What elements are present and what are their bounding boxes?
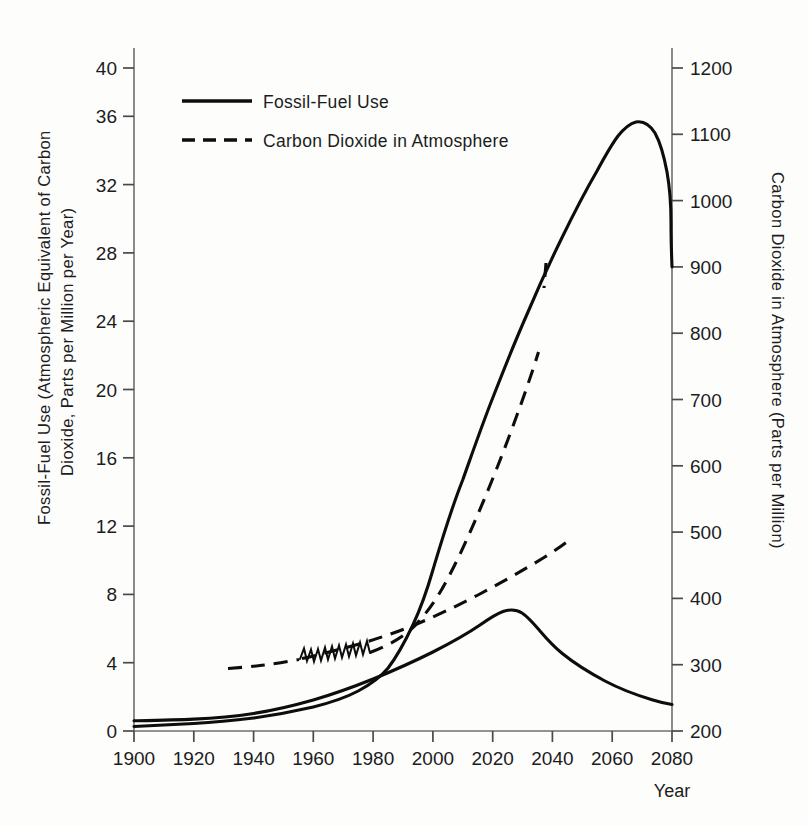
left-tick-label-12: 12 (96, 516, 117, 537)
x-tick-label-2080: 2080 (651, 748, 693, 769)
left-tick-label-0: 0 (106, 721, 117, 742)
right-tick-label-500: 500 (690, 522, 722, 543)
chart-figure: 0 4 8 12 16 20 24 28 32 36 40 2 (0, 0, 808, 826)
left-tick-label-32: 32 (96, 175, 117, 196)
right-axis-ticks: 200 300 400 500 600 700 800 900 1000 110… (672, 58, 732, 742)
chart-legend: Fossil-Fuel Use Carbon Dioxide in Atmosp… (182, 92, 509, 151)
right-tick-label-900: 900 (690, 257, 722, 278)
x-tick-label-2000: 2000 (412, 748, 454, 769)
left-tick-label-40: 40 (96, 58, 117, 79)
x-axis-title: Year (654, 781, 690, 801)
series-fossil-fuel-dashed-projection (302, 543, 566, 659)
right-tick-label-400: 400 (690, 588, 722, 609)
x-tick-label-1980: 1980 (352, 748, 394, 769)
right-tick-label-1100: 1100 (690, 124, 731, 145)
left-tick-label-16: 16 (96, 448, 117, 469)
left-axis-title-line2: Dioxide, Parts per Million per Year) (58, 208, 76, 476)
series-carbon-dioxide-solid (134, 122, 672, 727)
legend-label-fossil-fuel-use: Fossil-Fuel Use (263, 92, 389, 112)
dashed-stub-marker (544, 263, 546, 288)
x-tick-label-1920: 1920 (173, 748, 215, 769)
left-tick-label-36: 36 (96, 106, 117, 127)
legend-label-carbon-dioxide: Carbon Dioxide in Atmosphere (263, 131, 509, 151)
series-carbon-dioxide-dashed-observed (228, 660, 299, 669)
right-tick-label-600: 600 (690, 456, 722, 477)
left-tick-label-8: 8 (106, 584, 117, 605)
right-tick-label-1000: 1000 (690, 191, 732, 212)
x-tick-label-2040: 2040 (531, 748, 573, 769)
left-tick-label-4: 4 (106, 653, 117, 674)
left-axis-ticks: 0 4 8 12 16 20 24 28 32 36 40 (96, 58, 134, 742)
x-tick-label-1900: 1900 (113, 748, 155, 769)
right-tick-label-800: 800 (690, 323, 722, 344)
right-axis-title: Carbon Dioxide in Atmosphere (Parts per … (769, 172, 787, 549)
left-tick-label-28: 28 (96, 243, 117, 264)
right-tick-label-300: 300 (690, 655, 722, 676)
x-tick-label-2020: 2020 (472, 748, 514, 769)
right-tick-label-200: 200 (690, 721, 722, 742)
chart-canvas: 0 4 8 12 16 20 24 28 32 36 40 2 (0, 0, 808, 826)
x-axis-ticks: 1900 1920 1940 1960 1980 2000 2020 2040 … (113, 731, 693, 769)
left-tick-label-20: 20 (96, 380, 117, 401)
left-tick-label-24: 24 (96, 311, 118, 332)
right-tick-label-700: 700 (690, 390, 722, 411)
series-fossil-fuel-solid (134, 610, 672, 721)
left-axis-title-line1: Fossil-Fuel Use (Atmospheric Equivalent … (35, 130, 53, 525)
x-tick-label-2060: 2060 (591, 748, 633, 769)
right-tick-label-1200: 1200 (690, 58, 732, 79)
x-tick-label-1960: 1960 (292, 748, 334, 769)
x-tick-label-1940: 1940 (232, 748, 274, 769)
